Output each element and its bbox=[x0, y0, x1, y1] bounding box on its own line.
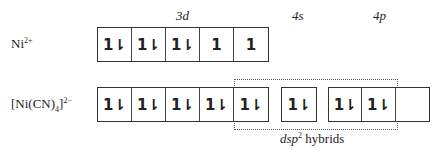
orbital-box: 1⇂ bbox=[132, 88, 166, 121]
species-label-ni2: Ni2+ bbox=[11, 36, 33, 52]
orbital-box: 1 bbox=[234, 28, 268, 61]
orbital-box: 1⇂ bbox=[200, 88, 234, 121]
ni2-3d-orbitals: 1⇂ 1⇂ 1⇂ 1 1 bbox=[97, 27, 269, 62]
orbital-box bbox=[396, 88, 429, 121]
orbital-label-3d: 3d bbox=[176, 8, 189, 24]
nicn4-3d-orbitals: 1⇂ 1⇂ 1⇂ 1⇂ 1⇂ bbox=[97, 87, 269, 122]
orbital-label-4p: 4p bbox=[373, 8, 386, 24]
orbital-box: 1⇂ bbox=[362, 88, 395, 121]
orbital-box: 1⇂ bbox=[98, 28, 132, 61]
orbital-box: 1⇂ bbox=[329, 88, 362, 121]
nicn4-4s-orbital: 1⇂ bbox=[281, 87, 317, 122]
orbital-box: 1⇂ bbox=[234, 88, 268, 121]
orbital-box: 1⇂ bbox=[166, 88, 200, 121]
hybrid-label: dsp2 hybrids bbox=[280, 131, 344, 147]
orbital-box: 1⇂ bbox=[98, 88, 132, 121]
orbital-box: 1 bbox=[200, 28, 234, 61]
orbital-box: 1⇂ bbox=[132, 28, 166, 61]
nicn4-4p-orbitals: 1⇂ 1⇂ bbox=[328, 87, 430, 122]
orbital-label-4s: 4s bbox=[292, 8, 304, 24]
species-label-nicn4: [Ni(CN)4]2− bbox=[11, 96, 72, 114]
orbital-box: 1⇂ bbox=[282, 88, 316, 121]
orbital-box: 1⇂ bbox=[166, 28, 200, 61]
